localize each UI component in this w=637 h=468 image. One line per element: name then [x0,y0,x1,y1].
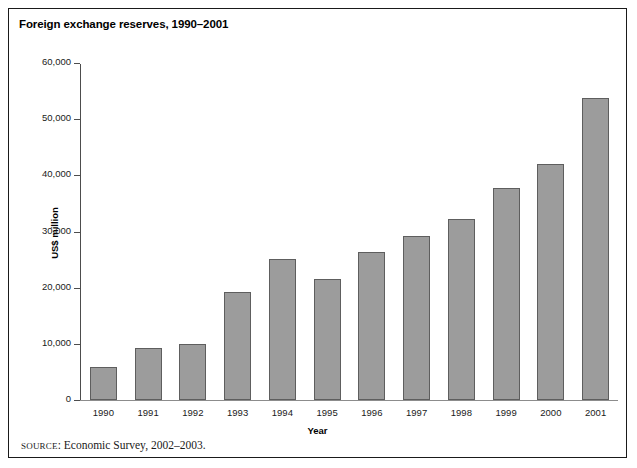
bar [537,164,564,400]
bar-slot: 1993 [215,64,260,400]
bar-slot: 1996 [350,64,395,400]
x-axis-label: Year [9,425,626,436]
bar-slot: 1991 [126,64,171,400]
y-axis-tick: 30,000 [74,232,80,233]
figure-panel: Foreign exchange reserves, 1990–2001 US$… [8,8,627,458]
source-text: Economic Survey, 2002–2003. [64,439,206,451]
bar-slot: 1992 [171,64,216,400]
x-axis-tick-label: 1994 [272,407,293,418]
x-axis-tick-label: 1992 [182,407,203,418]
bar [314,279,341,400]
bar-slot: 1998 [439,64,484,400]
bar-slot: 1999 [484,64,529,400]
y-axis-tick-label: 50,000 [42,112,71,123]
bar-slot: 2000 [529,64,574,400]
bar [224,292,251,400]
y-axis-tick: 10,000 [74,344,80,345]
bar [582,98,609,400]
x-axis-tick-label: 1998 [451,407,472,418]
bar [90,367,117,400]
y-axis-tick-label: 0 [66,393,71,404]
bar-slot: 1994 [260,64,305,400]
x-axis-tick-label: 2000 [540,407,561,418]
source-note: SOURCE: Economic Survey, 2002–2003. [21,439,206,451]
bar-slot: 1990 [81,64,126,400]
y-axis-tick: 20,000 [74,288,80,289]
bar [358,252,385,400]
y-axis-tick-label: 60,000 [42,56,71,67]
x-axis-tick-label: 1990 [93,407,114,418]
y-axis-tick-label: 10,000 [42,337,71,348]
plot-area: 010,00020,00030,00040,00050,00060,000 19… [80,64,618,401]
bar-slot: 1997 [394,64,439,400]
x-axis-tick-label: 1995 [317,407,338,418]
bar [135,348,162,400]
bar-slot: 1995 [305,64,350,400]
y-axis-tick-label: 20,000 [42,281,71,292]
bar-series: 1990199119921993199419951996199719981999… [81,64,618,400]
y-axis-tick: 0 [74,400,80,401]
bar [493,188,520,400]
x-axis-tick-label: 1993 [227,407,248,418]
bar [179,344,206,400]
y-axis-tick-label: 30,000 [42,225,71,236]
x-axis-tick-label: 2001 [585,407,606,418]
x-axis-tick-label: 1997 [406,407,427,418]
x-axis-tick-label: 1996 [361,407,382,418]
source-prefix: SOURCE [21,441,58,451]
y-axis-tick: 50,000 [74,119,80,120]
y-axis-tick: 40,000 [74,175,80,176]
bar-slot: 2001 [573,64,618,400]
bar [403,236,430,400]
x-axis-line [80,400,618,401]
x-axis-tick-label: 1999 [496,407,517,418]
chart-title: Foreign exchange reserves, 1990–2001 [19,18,228,30]
bar [269,259,296,400]
x-axis-tick-label: 1991 [138,407,159,418]
y-axis-tick: 60,000 [74,63,80,64]
y-axis-tick-label: 40,000 [42,168,71,179]
bar [448,219,475,400]
